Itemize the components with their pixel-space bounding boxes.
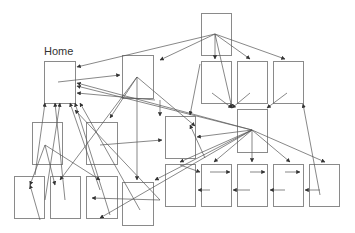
page-node-l2 — [87, 123, 118, 165]
link-arrow — [190, 64, 200, 115]
page-node-r2a — [202, 62, 232, 104]
page-node-r2b — [238, 62, 268, 104]
page-node-c3 — [238, 165, 268, 207]
page-node-c2 — [202, 165, 232, 207]
page-node-b4 — [123, 183, 154, 226]
page-node-r2c — [274, 62, 304, 104]
page-node-b2 — [51, 177, 81, 219]
page-node-b1 — [15, 177, 45, 219]
page-node-c1 — [166, 165, 196, 207]
page-node-home — [45, 62, 76, 104]
diagram-canvas — [0, 0, 355, 233]
site-map-diagram: Home — [0, 0, 355, 233]
home-label: Home — [44, 45, 73, 57]
page-node-c4 — [274, 165, 304, 207]
page-node-b3 — [87, 177, 118, 219]
page-node-c5 — [310, 165, 340, 207]
